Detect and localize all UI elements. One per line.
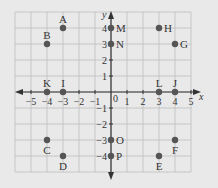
x-tick-label: −4 <box>42 96 53 107</box>
point-g <box>172 41 178 47</box>
y-tick-label: −1 <box>96 103 107 114</box>
point-a <box>60 25 66 31</box>
point-label-e: E <box>156 160 163 172</box>
x-tick-label: 5 <box>189 96 194 107</box>
point-f <box>172 137 178 143</box>
point-label-h: H <box>164 22 172 34</box>
point-label-d: D <box>59 160 67 172</box>
x-tick-label: −5 <box>26 96 37 107</box>
point-i <box>60 89 66 95</box>
y-tick-label: 1 <box>102 71 107 82</box>
x-tick-label: 2 <box>141 96 146 107</box>
point-label-b: B <box>43 29 50 41</box>
origin-label: 0 <box>113 93 118 104</box>
point-k <box>44 89 50 95</box>
y-tick-label: 3 <box>102 39 107 50</box>
point-label-c: C <box>43 144 50 156</box>
point-l <box>156 89 162 95</box>
point-j <box>172 89 178 95</box>
point-label-k: K <box>43 77 51 89</box>
point-b <box>44 41 50 47</box>
point-o <box>108 137 114 143</box>
x-tick-label: 4 <box>173 96 178 107</box>
point-e <box>156 153 162 159</box>
y-axis-arrow-down-icon <box>108 172 114 180</box>
point-m <box>108 25 114 31</box>
x-tick-label: −3 <box>58 96 69 107</box>
y-tick-label: −4 <box>96 151 107 162</box>
y-tick-label: 4 <box>102 23 107 34</box>
point-label-o: O <box>116 134 124 146</box>
x-tick-label: −2 <box>74 96 85 107</box>
point-label-g: G <box>180 38 188 50</box>
point-d <box>60 153 66 159</box>
point-n <box>108 41 114 47</box>
point-h <box>156 25 162 31</box>
point-label-l: L <box>156 77 163 89</box>
point-label-n: N <box>116 38 124 50</box>
point-c <box>44 137 50 143</box>
coordinate-plane: xy −5−4−3−2−112345−4−3−2−112340 ABCDEFGH… <box>0 0 218 188</box>
point-label-p: P <box>116 150 122 162</box>
point-label-m: M <box>116 22 126 34</box>
y-tick-label: 2 <box>102 55 107 66</box>
x-tick-label: 3 <box>157 96 162 107</box>
point-label-a: A <box>59 13 67 25</box>
x-axis-arrow-left-icon <box>15 89 23 95</box>
point-label-i: I <box>61 77 65 89</box>
point-p <box>108 153 114 159</box>
x-axis-label: x <box>198 91 204 102</box>
y-tick-label: −3 <box>96 135 107 146</box>
x-tick-label: 1 <box>125 96 130 107</box>
y-axis-label: y <box>101 9 107 20</box>
point-label-j: J <box>173 77 178 89</box>
y-tick-label: −2 <box>96 119 107 130</box>
point-label-f: F <box>172 144 178 156</box>
